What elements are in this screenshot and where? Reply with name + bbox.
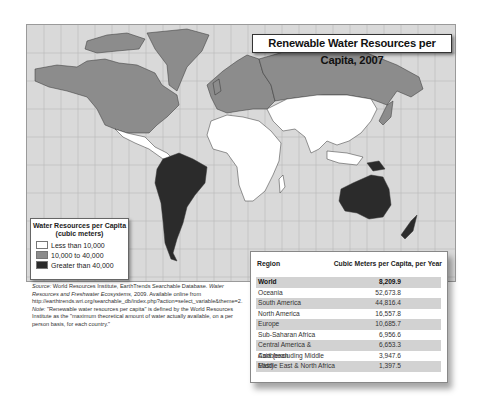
data-table: Region Cubic Meters per Capita, per Year… bbox=[250, 251, 448, 383]
row-value: 10,685.7 bbox=[341, 319, 401, 330]
legend-subtitle: (cubic meters) bbox=[31, 230, 128, 238]
new-zealand bbox=[401, 215, 417, 239]
legend-item-high: Greater than 40,000 bbox=[36, 260, 128, 270]
note-text: "Renewable water resources per capita" i… bbox=[32, 306, 233, 327]
legend-label: Less than 10,000 bbox=[51, 242, 105, 249]
map-legend: Water Resources per Capita (cubic meters… bbox=[30, 218, 129, 280]
row-value: 8,209.9 bbox=[341, 277, 401, 288]
row-value: 6,653.3 bbox=[342, 340, 401, 351]
source-label: Source: bbox=[32, 283, 51, 289]
legend-item-mid: 10,000 to 40,000 bbox=[36, 250, 128, 260]
table-row: Asia (excluding Middle East)3,947.6 bbox=[256, 351, 441, 362]
row-region: Oceania bbox=[258, 288, 283, 299]
row-region: Asia (excluding Middle East) bbox=[258, 351, 341, 362]
row-value: 44,816.4 bbox=[341, 298, 401, 309]
southeast-asia bbox=[327, 151, 363, 165]
row-value: 1,397.5 bbox=[341, 361, 401, 372]
legend-swatch-high bbox=[36, 261, 48, 269]
table-row: Middle East & North Africa1,397.5 bbox=[256, 361, 441, 372]
row-region: North America bbox=[258, 309, 300, 320]
row-region: Europe bbox=[258, 319, 279, 330]
row-region: Central America & Caribbean bbox=[258, 340, 342, 351]
africa bbox=[207, 115, 281, 201]
row-region: South America bbox=[258, 298, 301, 309]
table-header: Region Cubic Meters per Capita, per Year bbox=[251, 252, 447, 277]
map-title: Renewable Water Resources per Capita, 20… bbox=[252, 34, 452, 53]
table-row: World8,209.9 bbox=[256, 277, 441, 288]
source-note: Source: World Resources Institute, Earth… bbox=[32, 283, 250, 329]
row-value: 6,956.6 bbox=[341, 330, 401, 341]
north-america bbox=[35, 59, 179, 133]
table-row: Sub-Saharan Africa6,956.6 bbox=[256, 330, 441, 341]
table-row: Oceania52,673.8 bbox=[256, 288, 441, 299]
table-row: North America16,557.8 bbox=[256, 309, 441, 320]
row-value: 3,947.6 bbox=[341, 351, 401, 362]
madagascar bbox=[279, 175, 285, 193]
central-america bbox=[115, 129, 173, 159]
table-row: Europe10,685.7 bbox=[256, 319, 441, 330]
table-row: South America44,816.4 bbox=[256, 298, 441, 309]
header-region: Region bbox=[257, 260, 280, 277]
row-value: 16,557.8 bbox=[341, 309, 401, 320]
legend-swatch-low bbox=[36, 241, 48, 249]
row-region: Middle East & North Africa bbox=[258, 361, 335, 372]
asia bbox=[267, 95, 377, 153]
row-region: Sub-Saharan Africa bbox=[258, 330, 315, 341]
table-row: Central America & Caribbean6,653.3 bbox=[256, 340, 441, 351]
legend-swatch-mid bbox=[36, 251, 48, 259]
header-value: Cubic Meters per Capita, per Year bbox=[334, 260, 442, 277]
legend-item-low: Less than 10,000 bbox=[36, 240, 128, 250]
legend-label: Greater than 40,000 bbox=[51, 262, 114, 269]
source-text: World Resources Institute, EarthTrends S… bbox=[53, 283, 208, 289]
australia bbox=[339, 175, 391, 219]
row-region: World bbox=[258, 277, 277, 288]
row-value: 52,673.8 bbox=[341, 288, 401, 299]
legend-title: Water Resources per Capita bbox=[31, 222, 128, 230]
canadian-islands bbox=[85, 33, 145, 53]
png bbox=[367, 161, 385, 171]
note-label: Note: bbox=[32, 306, 45, 312]
legend-label: 10,000 to 40,000 bbox=[51, 252, 104, 259]
